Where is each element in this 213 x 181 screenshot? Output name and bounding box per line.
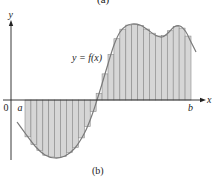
riemann-rectangle — [150, 33, 156, 100]
riemann-rectangle — [55, 100, 61, 157]
riemann-rectangle — [25, 100, 31, 137]
riemann-rectangle — [37, 100, 43, 150]
riemann-rectangle — [144, 29, 150, 100]
riemann-rectangle — [72, 100, 78, 147]
riemann-rectangle — [31, 100, 37, 145]
riemann-rectangle — [120, 29, 126, 100]
riemann-rectangle — [114, 39, 120, 100]
function-label: y = f(x) — [71, 52, 103, 64]
b-label: b — [188, 102, 193, 113]
x-axis-arrow-icon — [200, 98, 206, 102]
riemann-rectangle — [161, 35, 167, 100]
riemann-rectangle — [102, 74, 108, 100]
riemann-rectangles — [25, 24, 191, 157]
figure-caption: (b) — [92, 165, 104, 177]
origin-label: 0 — [4, 102, 9, 113]
riemann-sum-figure: (a) y x 0 a b y = f(x) (b) — [0, 0, 213, 181]
riemann-rectangle — [138, 25, 144, 100]
riemann-rectangle — [126, 25, 132, 100]
riemann-rectangle — [61, 100, 67, 156]
y-axis-label: y — [8, 9, 14, 20]
riemann-rectangle — [132, 24, 138, 100]
riemann-rectangle — [155, 36, 161, 100]
riemann-rectangle — [49, 100, 55, 157]
x-axis-label: x — [206, 94, 212, 105]
riemann-rectangle — [185, 36, 191, 100]
y-axis-arrow-icon — [9, 20, 13, 26]
a-label: a — [18, 102, 23, 113]
riemann-rectangle — [43, 100, 49, 155]
riemann-rectangle — [78, 100, 84, 138]
riemann-rectangle — [67, 100, 73, 152]
riemann-rectangle — [179, 28, 185, 100]
riemann-rectangle — [167, 31, 173, 100]
riemann-rectangle — [173, 27, 179, 100]
partial-caption-a: (a) — [97, 0, 110, 6]
